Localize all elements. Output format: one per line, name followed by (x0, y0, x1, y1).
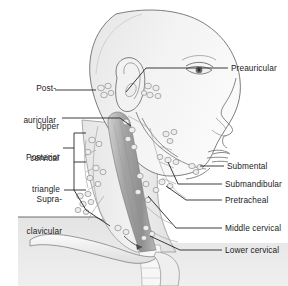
label-preauricular: Preauricular (231, 63, 277, 74)
label-supraclavicular-line2: clavicular (2, 226, 62, 237)
leader-pretracheal (166, 186, 222, 200)
label-upper-cervical-line1: Upper (4, 121, 59, 132)
supraclavicular-nodes (75, 191, 94, 214)
label-middle-cervical: Middle cervical (225, 223, 281, 234)
label-submandibular: Submandibular (225, 179, 282, 190)
label-supraclavicular: Supra- clavicular (2, 173, 62, 257)
label-supraclavicular-line1: Supra- (2, 194, 62, 205)
label-pretracheal: Pretracheal (225, 195, 268, 206)
label-submental: Submental (227, 161, 267, 172)
label-lower-cervical: Lower cervical (225, 245, 279, 256)
lymph-node-diagram: Post- auricular Upper cervical Posterior… (0, 0, 288, 286)
label-posterior-triangle-line1: Posterior (2, 152, 60, 163)
label-post-auricular-line1: Post- (4, 83, 56, 94)
